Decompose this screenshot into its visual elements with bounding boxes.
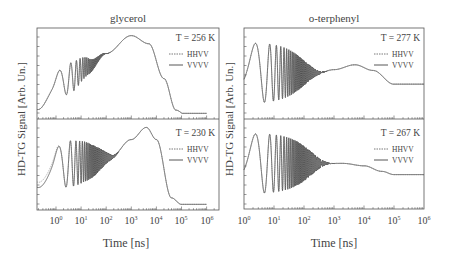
svg-text:101: 101 [268,215,281,226]
curve-hhvv [37,36,207,114]
svg-text:105: 105 [388,215,401,226]
svg-text:104: 104 [358,215,371,226]
temperature-label: T = 256 K [176,33,215,43]
legend-hhvv-label: HHVV [187,145,209,154]
curve-vvvv [37,36,207,114]
legend-vvvv-label: VVVV [187,156,209,165]
panel-oterphenyl-bottom-annotation: T = 267 K HHVV VVVV [374,128,420,165]
column-title-glycerol: glycerol [110,12,146,24]
temperature-label: T = 267 K [381,128,420,138]
svg-text:103: 103 [328,215,341,226]
legend-hhvv-label: HHVV [392,50,414,59]
curve-vvvv [37,127,207,204]
svg-text:106: 106 [201,215,214,226]
svg-text:100: 100 [238,215,251,226]
svg-text:106: 106 [418,215,431,226]
x-tick-labels-left: 100 101 102 103 104 105 106 [50,215,214,226]
panel-glycerol-bottom-annotation: T = 230 K HHVV VVVV [169,128,215,165]
x-tick-labels-right: 100 101 102 103 104 105 106 [238,215,431,226]
figure: glycerol o-terphenyl HD-TG Signal [Arb. … [0,0,449,262]
x-axis-label-left: Time [ns] [103,236,150,250]
y-axis-label-left: HD-TG Signal [Arb. Un.] [15,62,27,176]
svg-text:102: 102 [100,215,113,226]
legend-vvvv-label: VVVV [187,61,209,70]
temperature-label: T = 230 K [176,128,215,138]
panel-glycerol-top-annotation: T = 256 K HHVV VVVV [169,33,215,70]
x-axis-label-right: Time [ns] [311,236,358,250]
panel-oterphenyl-top-annotation: T = 277 K HHVV VVVV [374,33,420,70]
column-title-o-terphenyl: o-terphenyl [309,12,360,24]
svg-text:100: 100 [50,215,63,226]
svg-text:101: 101 [75,215,88,226]
y-axis-label-right: HD-TG Signal [Arb. Un.] [223,62,235,176]
svg-text:103: 103 [125,215,138,226]
svg-text:102: 102 [298,215,311,226]
legend-hhvv-label: HHVV [187,50,209,59]
legend-vvvv-label: VVVV [392,156,414,165]
svg-text:105: 105 [175,215,188,226]
legend-hhvv-label: HHVV [392,145,414,154]
legend-vvvv-label: VVVV [392,61,414,70]
svg-text:104: 104 [150,215,163,226]
temperature-label: T = 277 K [381,33,420,43]
curve-hhvv [37,127,207,204]
